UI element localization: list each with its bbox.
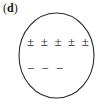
positive-charge-symbol: ±	[41, 35, 48, 48]
positive-charge-symbol: ±	[68, 35, 75, 48]
positive-charge-symbol: ±	[82, 35, 89, 48]
figure-panel-d: (d) ± ± ± ± ± − − −	[0, 0, 103, 104]
negative-charge-row: − − −	[27, 62, 63, 75]
positive-charge-symbol: ±	[54, 35, 61, 48]
negative-charge-symbol: −	[56, 62, 63, 75]
charge-layer: ± ± ± ± ± − − −	[0, 0, 103, 104]
negative-charge-symbol: −	[27, 62, 34, 75]
negative-charge-symbol: −	[41, 62, 48, 75]
positive-charge-symbol: ±	[27, 35, 34, 48]
positive-charge-row: ± ± ± ± ±	[27, 35, 89, 48]
